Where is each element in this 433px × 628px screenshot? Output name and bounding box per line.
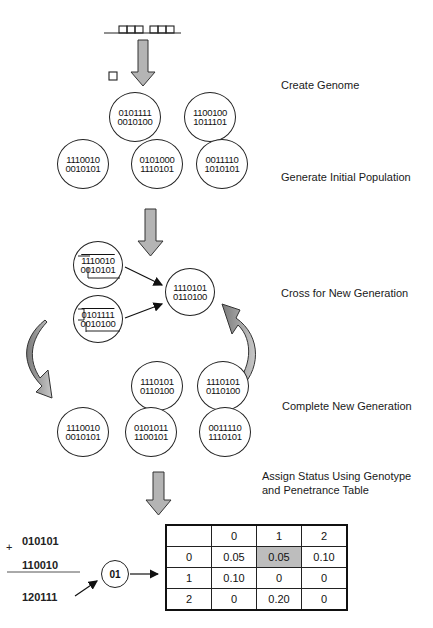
genome-circle: 01010111100101 bbox=[125, 407, 177, 457]
step-label-complete: Complete New Generation bbox=[282, 399, 412, 413]
down-arrow-icon bbox=[138, 209, 163, 256]
plus-sign: + bbox=[6, 541, 12, 553]
allele-sum: 120111 bbox=[22, 591, 58, 603]
genome-circle: 11101010110100 bbox=[197, 361, 249, 411]
table-cell bbox=[166, 525, 212, 547]
table-row: 0 0.05 0.05 0.10 bbox=[166, 547, 347, 568]
table-row: 2 0 0.20 0 bbox=[166, 589, 347, 611]
step-label-assign-1: Assign Status Using Genotype bbox=[262, 469, 411, 483]
allele-line-2: 110010 bbox=[22, 559, 58, 571]
table-cell: 0.10 bbox=[212, 568, 257, 589]
step-label-cross: Cross for New Generation bbox=[281, 286, 408, 300]
genome-bar-icon bbox=[104, 26, 181, 33]
table-cell: 0 bbox=[302, 568, 348, 589]
down-arrow-icon bbox=[146, 472, 171, 515]
table-cell: 0.20 bbox=[257, 589, 302, 611]
table-cell: 1 bbox=[166, 568, 212, 589]
parent-genome-circle: 01011110010100 bbox=[73, 295, 123, 343]
small-square-icon bbox=[109, 72, 117, 80]
genome-circle: 11100100010101 bbox=[57, 139, 109, 189]
genome-circle: 00111101010101 bbox=[196, 139, 248, 189]
genome-circle: 01011110010100 bbox=[109, 92, 161, 142]
genotype-circle: 01 bbox=[101, 560, 129, 588]
table-cell: 0 bbox=[212, 525, 257, 547]
table-cell: 0 bbox=[166, 547, 212, 568]
parent-genome-circle: 11100100010101 bbox=[73, 241, 123, 289]
table-cell: 2 bbox=[302, 525, 348, 547]
penetrance-table: 0 1 2 0 0.05 0.05 0.10 1 0.10 0 0 2 0 0.… bbox=[165, 524, 348, 611]
table-cell: 0 bbox=[257, 568, 302, 589]
genome-circle: 01010001110101 bbox=[131, 139, 183, 189]
table-cell: 0.05 bbox=[212, 547, 257, 568]
step-label-assign-2: and Penetrance Table bbox=[262, 483, 369, 497]
table-cell: 0 bbox=[302, 589, 348, 611]
table-cell: 1 bbox=[257, 525, 302, 547]
table-row: 1 0.10 0 0 bbox=[166, 568, 347, 589]
allele-line-1: 010101 bbox=[22, 535, 59, 547]
curved-arrow-icon bbox=[27, 320, 52, 398]
step-label-generate-population: Generate Initial Population bbox=[281, 170, 411, 184]
offspring-genome-circle: 11101010110100 bbox=[165, 268, 215, 316]
genome-circle: 11001001011101 bbox=[184, 92, 236, 142]
step-label-create-genome: Create Genome bbox=[281, 78, 359, 92]
table-cell-highlighted: 0.05 bbox=[257, 547, 302, 568]
table-cell: 0.10 bbox=[302, 547, 348, 568]
down-arrow-icon bbox=[131, 40, 155, 86]
genome-circle: 11101010110100 bbox=[131, 361, 183, 411]
table-header-row: 0 1 2 bbox=[166, 525, 347, 547]
table-cell: 0 bbox=[212, 589, 257, 611]
genome-circle: 00111101110101 bbox=[199, 407, 251, 457]
genome-circle: 11100100010101 bbox=[57, 407, 109, 457]
table-cell: 2 bbox=[166, 589, 212, 611]
